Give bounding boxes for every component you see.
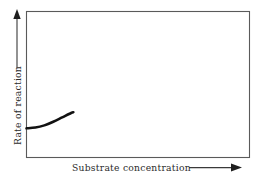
figure-container: Rate of reaction Substrate concentration — [0, 0, 265, 179]
enzyme-rate-chart: Rate of reaction Substrate concentration — [0, 0, 265, 179]
y-axis-label: Rate of reaction — [12, 66, 23, 145]
x-axis-label: Substrate concentration — [72, 162, 191, 173]
chart-background — [0, 0, 265, 179]
